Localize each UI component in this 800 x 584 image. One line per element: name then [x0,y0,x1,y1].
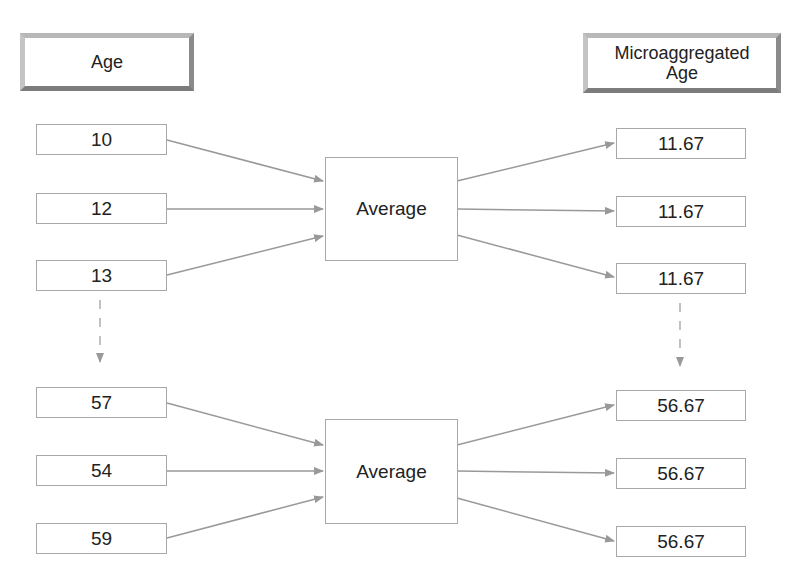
input-age-value: 10 [91,129,112,151]
input-age-value: 57 [91,392,112,414]
input-age-box: 59 [36,523,167,554]
input-age-value: 54 [91,460,112,482]
output-age-box: 56.67 [616,390,746,421]
average-operation-box: Average [325,157,458,261]
input-age-box: 13 [36,260,167,291]
input-age-value: 13 [91,265,112,287]
output-age-value: 11.67 [658,268,704,290]
output-age-box: 56.67 [616,526,746,557]
output-age-value: 11.67 [658,133,704,155]
input-age-box: 10 [36,124,167,155]
output-age-box: 11.67 [616,196,746,227]
input-age-box: 57 [36,387,167,418]
input-age-box: 54 [36,455,167,486]
output-age-box: 56.67 [616,458,746,489]
input-age-box: 12 [36,193,167,224]
average-label: Average [356,461,426,483]
output-age-box: 11.67 [616,128,746,159]
average-operation-box: Average [325,419,458,524]
input-age-value: 59 [91,528,112,550]
input-age-value: 12 [91,198,112,220]
output-age-value: 56.67 [657,531,705,553]
output-age-box: 11.67 [616,263,746,294]
average-label: Average [356,198,426,220]
output-age-value: 11.67 [658,201,704,223]
output-age-value: 56.67 [657,463,705,485]
output-age-value: 56.67 [657,395,705,417]
